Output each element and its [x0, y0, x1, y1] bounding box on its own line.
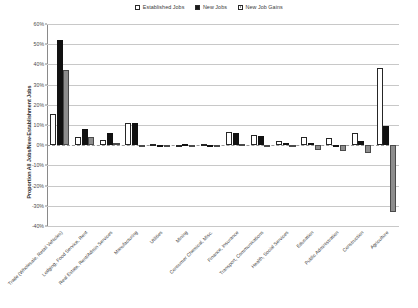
legend-label-new-jobs: New Jobs [203, 4, 227, 10]
bar-established [326, 138, 332, 145]
legend-label-established-jobs: Established Jobs [143, 4, 185, 10]
bar-group [173, 24, 198, 226]
bar-gains [214, 145, 220, 147]
bar-gains [139, 145, 145, 147]
bar-gains [63, 70, 69, 145]
y-axis-tick-label: 50% [34, 41, 44, 47]
bar-gains [264, 145, 270, 147]
bar-gains [88, 137, 94, 145]
bar-gains [390, 145, 396, 212]
x-axis-label: Education [296, 230, 315, 249]
bar-established [276, 141, 282, 145]
bar-newjobs [182, 144, 188, 146]
bar-gains [289, 145, 295, 147]
bar-triplet [198, 24, 223, 226]
bar-established [125, 123, 131, 145]
legend-item-new-job-gains: New Job Gains [238, 4, 283, 10]
y-axis-tick-label: 60% [34, 21, 44, 27]
bar-established [150, 144, 156, 146]
y-axis-tick-label: -30% [32, 203, 44, 209]
bar-gains [113, 143, 119, 145]
bar-established [100, 140, 106, 145]
bar-group [324, 24, 349, 226]
y-axis-tick-label: 40% [34, 61, 44, 67]
x-axis-label-cell: Construction [349, 228, 374, 308]
bar-triplet [298, 24, 323, 226]
y-axis-tick-label: 20% [34, 102, 44, 108]
y-axis-tick-label: -10% [32, 162, 44, 168]
bar-group [122, 24, 147, 226]
bar-newjobs [82, 129, 88, 145]
x-axis-label-cell: Public Administration [324, 228, 349, 308]
x-axis-label-cell: Real Estate, Rent/Admin Services [97, 228, 122, 308]
bar-group [97, 24, 122, 226]
x-axis-label: Mining [175, 230, 189, 244]
bar-newjobs [107, 133, 113, 145]
bar-newjobs [283, 143, 289, 145]
bar-newjobs [383, 126, 389, 145]
bar-newjobs [258, 136, 264, 145]
x-axis-label-cell: Manufacturing [122, 228, 147, 308]
bar-established [226, 132, 232, 145]
square-filled-black-swatch-icon [195, 5, 200, 10]
bar-established [201, 144, 207, 146]
legend-item-established-jobs: Established Jobs [135, 4, 184, 10]
bar-group [47, 24, 72, 226]
square-outline-swatch-icon [135, 5, 140, 10]
y-axis-title: Proportion All Jobs/New-Establishment Jo… [26, 67, 32, 217]
x-axis-label-cell: Agriculture [374, 228, 399, 308]
bar-newjobs [57, 40, 63, 145]
bar-established [75, 137, 81, 145]
bar-newjobs [358, 141, 364, 145]
legend-item-new-jobs: New Jobs [195, 4, 227, 10]
bar-group [148, 24, 173, 226]
legend-label-new-job-gains: New Job Gains [245, 4, 282, 10]
bar-group [374, 24, 399, 226]
bar-triplet [72, 24, 97, 226]
bar-established [377, 68, 383, 145]
bar-triplet [173, 24, 198, 226]
bar-group [273, 24, 298, 226]
bar-group [72, 24, 97, 226]
bar-gains [315, 145, 321, 150]
bar-gains [340, 145, 346, 151]
bar-triplet [122, 24, 147, 226]
bar-established [352, 133, 358, 145]
bar-newjobs [308, 143, 314, 145]
bar-groups [47, 24, 399, 226]
y-axis-tick-label: 30% [34, 82, 44, 88]
bar-group [298, 24, 323, 226]
y-axis-tick-label: -20% [32, 183, 44, 189]
bar-established [301, 137, 307, 145]
bar-triplet [324, 24, 349, 226]
bar-established [176, 145, 182, 147]
x-axis-labels: Trade (Wholesale, Retail Vehicles)Lodgin… [47, 228, 399, 308]
x-axis-label: Utilities [149, 230, 164, 245]
bar-chart: Established Jobs New Jobs New Job Gains … [0, 0, 418, 308]
bar-triplet [97, 24, 122, 226]
bar-triplet [273, 24, 298, 226]
chart-legend: Established Jobs New Jobs New Job Gains [0, 4, 418, 10]
y-axis-tick-label: 0% [37, 142, 45, 148]
plot-area: 60%50%40%30%20%10%0%-10%-20%-30%-40% [47, 24, 399, 226]
bar-triplet [374, 24, 399, 226]
bar-triplet [349, 24, 374, 226]
square-filled-gray-swatch-icon [238, 5, 243, 10]
x-axis-label-cell: Utilities [148, 228, 173, 308]
bar-newjobs [132, 123, 138, 145]
bar-gains [164, 145, 170, 147]
bar-newjobs [333, 145, 339, 147]
bar-group [349, 24, 374, 226]
bar-triplet [223, 24, 248, 226]
bar-triplet [248, 24, 273, 226]
bar-gains [365, 145, 371, 153]
bar-group [248, 24, 273, 226]
x-axis-label-cell: Education [298, 228, 323, 308]
bar-group [198, 24, 223, 226]
bar-newjobs [233, 133, 239, 145]
bar-triplet [47, 24, 72, 226]
gridline [47, 226, 399, 227]
bar-newjobs [207, 145, 213, 147]
x-axis-label-cell: Health, Social Services [273, 228, 298, 308]
y-axis-tick-label: 10% [34, 122, 44, 128]
